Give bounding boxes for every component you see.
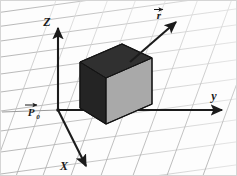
point-p0-subscript: 0 (36, 113, 40, 121)
figure-container: Z y X r P 0 (0, 0, 237, 176)
origin-dot (56, 108, 60, 112)
diagram-canvas: Z y X r P 0 (0, 0, 237, 176)
vector-r-label: r (157, 9, 162, 21)
point-p0-marker (56, 108, 60, 112)
axis-x-label: X (59, 159, 69, 173)
axis-z-label: Z (42, 15, 51, 29)
point-p0-label: P (28, 106, 35, 118)
axis-y-label: y (209, 89, 217, 103)
